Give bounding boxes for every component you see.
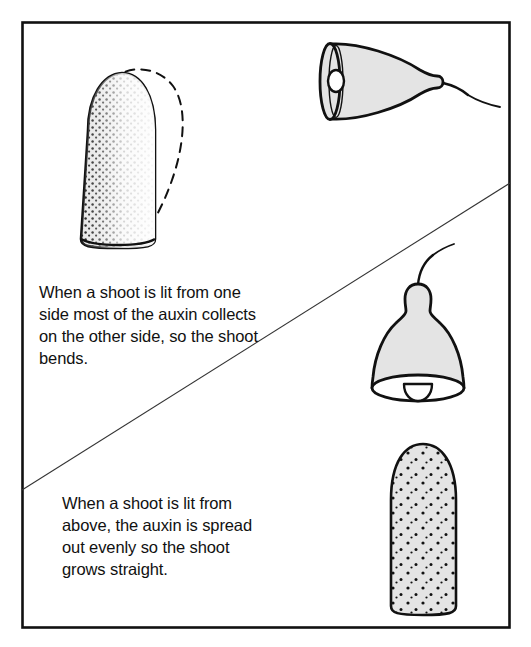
auxin-dots-even [388,440,460,620]
caption-side-lit-shoot: When a shoot is lit from one side most o… [39,282,269,370]
straight-shoot [388,440,460,620]
side-lamp [320,44,500,120]
diagram-page: When a shoot is lit from one side most o… [0,0,531,647]
caption-overhead-lit-shoot: When a shoot is lit from above, the auxi… [62,493,277,581]
side-lamp-cord-extension [468,95,500,107]
side-lamp-cord [443,83,468,95]
side-lamp-bulb [328,70,344,92]
bent-shoot [78,70,160,252]
overhead-lamp [372,244,464,401]
overhead-lamp-cord [418,255,433,285]
overhead-lamp-cord-extension [433,244,454,255]
side-lamp-shade [330,44,443,119]
overhead-lamp-shade [372,284,464,388]
auxin-dots-shaded-side [78,70,160,252]
